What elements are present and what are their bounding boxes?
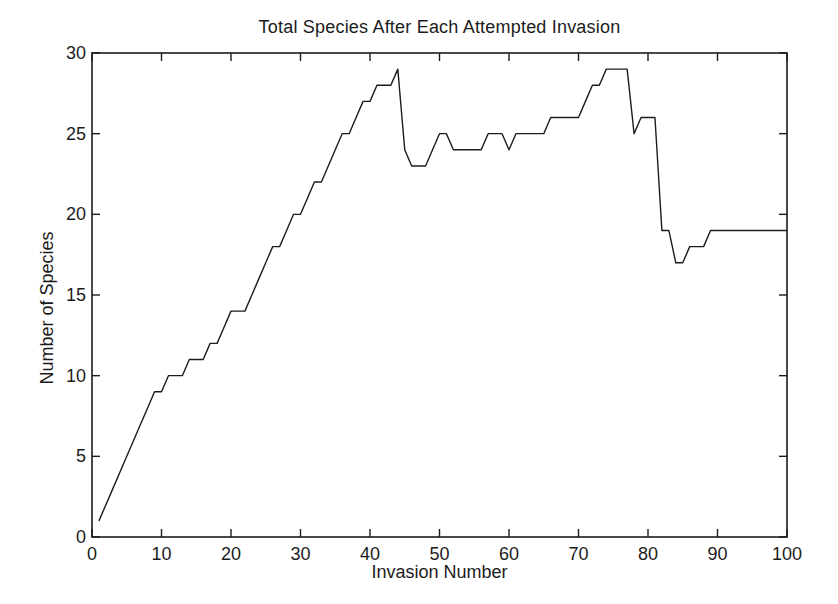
x-tick-label-0: 0 [62,544,122,564]
x-axis-label: Invasion Number [92,562,787,583]
species-line-series [99,69,787,521]
plot-border [92,53,787,537]
x-tick-label-4: 40 [340,544,400,564]
x-tick-label-9: 90 [688,544,748,564]
x-tick-label-1: 10 [132,544,192,564]
x-tick-label-6: 60 [479,544,539,564]
chart-figure: Total Species After Each Attempted Invas… [0,0,838,604]
y-tick-label-5: 25 [42,124,86,144]
x-tick-label-5: 50 [410,544,470,564]
x-tick-label-8: 80 [618,544,678,564]
y-tick-label-3: 15 [42,285,86,305]
y-tick-label-4: 20 [42,204,86,224]
x-tick-label-7: 70 [549,544,609,564]
y-tick-label-6: 30 [42,43,86,63]
plot-area [0,0,838,604]
y-tick-label-0: 0 [42,527,86,547]
axis-tick-marks [92,53,787,537]
x-tick-label-3: 30 [271,544,331,564]
y-tick-label-1: 5 [42,446,86,466]
x-tick-label-10: 100 [757,544,817,564]
x-tick-label-2: 20 [201,544,261,564]
y-tick-label-2: 10 [42,366,86,386]
